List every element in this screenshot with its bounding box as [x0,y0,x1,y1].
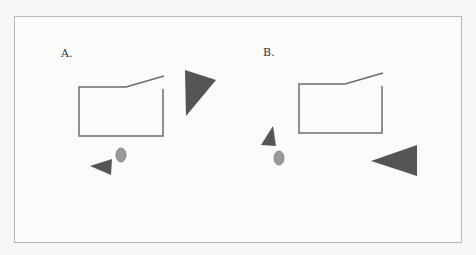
small-triangle-a [90,159,112,175]
open-box-b [299,73,383,133]
panel-b-label: B. [263,46,275,59]
large-triangle-a [185,70,216,116]
panel-a-label: A. [60,47,72,60]
large-triangle-b [371,145,417,176]
circle-a [116,148,126,162]
circle-b [274,151,284,165]
open-box-a [79,76,164,136]
panel-a: A. [60,47,216,175]
panel-b: B. [261,46,417,176]
diagram-canvas: A. B. [0,0,476,255]
small-triangle-b [261,126,276,146]
